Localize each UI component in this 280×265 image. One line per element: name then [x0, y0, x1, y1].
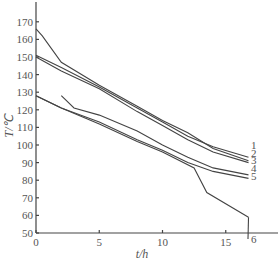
series-line-5 — [36, 96, 249, 179]
y-tick-label: 80 — [22, 174, 34, 186]
y-tick-label: 50 — [22, 227, 34, 239]
series-line-4 — [61, 96, 248, 175]
series-line-3 — [36, 57, 249, 163]
y-tick-label: 170 — [17, 16, 34, 28]
x-axis-title: t/h — [136, 247, 149, 261]
y-axis-title: T/℃ — [2, 113, 16, 138]
x-tick-label: 15 — [220, 236, 232, 248]
x-tick-label: 10 — [157, 236, 169, 248]
y-tick-label: 70 — [22, 192, 34, 204]
series-line-2 — [36, 29, 249, 161]
y-tick-label: 140 — [17, 69, 34, 81]
y-tick-label: 150 — [17, 51, 34, 63]
line-chart: 5060708090100110120130140150160170051015… — [0, 0, 280, 265]
y-tick-label: 90 — [22, 157, 34, 169]
series-6-leader — [248, 217, 249, 239]
y-tick-label: 60 — [22, 209, 34, 221]
y-tick-label: 100 — [17, 139, 34, 151]
x-tick-label: 5 — [97, 236, 103, 248]
series-label-6: 6 — [251, 233, 257, 245]
y-tick-label: 110 — [17, 121, 34, 133]
x-tick-label: 0 — [33, 236, 39, 248]
y-tick-label: 120 — [17, 104, 34, 116]
y-tick-label: 160 — [17, 33, 34, 45]
series-label-5: 5 — [251, 170, 257, 182]
y-tick-label: 130 — [17, 86, 34, 98]
